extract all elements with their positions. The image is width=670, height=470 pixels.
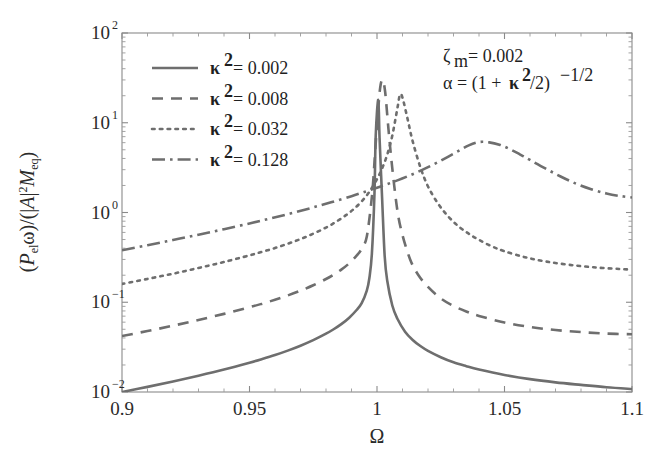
svg-text:α: α [443, 73, 453, 93]
legend-value: = 0.002 [233, 58, 288, 78]
svg-text:−1/2: −1/2 [560, 65, 593, 85]
svg-text:= 0.002: = 0.002 [468, 46, 523, 66]
svg-text:10: 10 [91, 381, 110, 402]
legend-symbol: κ [210, 150, 220, 170]
svg-text:Ω: Ω [370, 425, 385, 447]
legend-exponent: 2 [224, 111, 233, 131]
svg-text:m: m [454, 51, 468, 71]
y-axis-title: (Pelω)/(|A|2Meq) [16, 152, 41, 273]
x-axis-title: Ω [370, 425, 385, 447]
x-tick-label: 0.9 [110, 398, 134, 419]
x-tick-label: 1.1 [620, 398, 644, 419]
svg-text:= (1 +: = (1 + [457, 73, 501, 94]
svg-text:2: 2 [112, 18, 118, 32]
svg-text:1: 1 [112, 108, 118, 122]
svg-text:κ: κ [509, 73, 519, 93]
legend-symbol: κ [210, 89, 220, 109]
svg-text:10: 10 [91, 112, 110, 133]
chart-figure: 0.90.9511.051.1 10210110010−110−2 κ2= 0.… [0, 0, 670, 470]
svg-text:−1: −1 [112, 287, 125, 301]
svg-text:10: 10 [91, 291, 110, 312]
svg-text:0: 0 [112, 198, 118, 212]
x-tick-label: 1 [372, 398, 382, 419]
svg-text:ζ: ζ [443, 46, 451, 66]
legend-value: = 0.128 [233, 150, 288, 170]
legend-symbol: κ [210, 119, 220, 139]
svg-text:10: 10 [91, 202, 110, 223]
legend-value: = 0.032 [233, 119, 288, 139]
legend-exponent: 2 [224, 142, 233, 162]
svg-text:(Pelω)/(|A|2Meq): (Pelω)/(|A|2Meq) [16, 152, 41, 273]
x-tick-label: 0.95 [233, 398, 266, 419]
x-tick-label: 1.05 [488, 398, 521, 419]
legend-exponent: 2 [224, 50, 233, 70]
legend-value: = 0.008 [233, 89, 288, 109]
svg-text:−2: −2 [112, 377, 125, 391]
legend-symbol: κ [210, 58, 220, 78]
svg-text:10: 10 [91, 22, 110, 43]
power-dissipation-chart: 0.90.9511.051.1 10210110010−110−2 κ2= 0.… [0, 0, 670, 470]
svg-text:/2): /2) [530, 73, 550, 94]
legend-exponent: 2 [224, 81, 233, 101]
